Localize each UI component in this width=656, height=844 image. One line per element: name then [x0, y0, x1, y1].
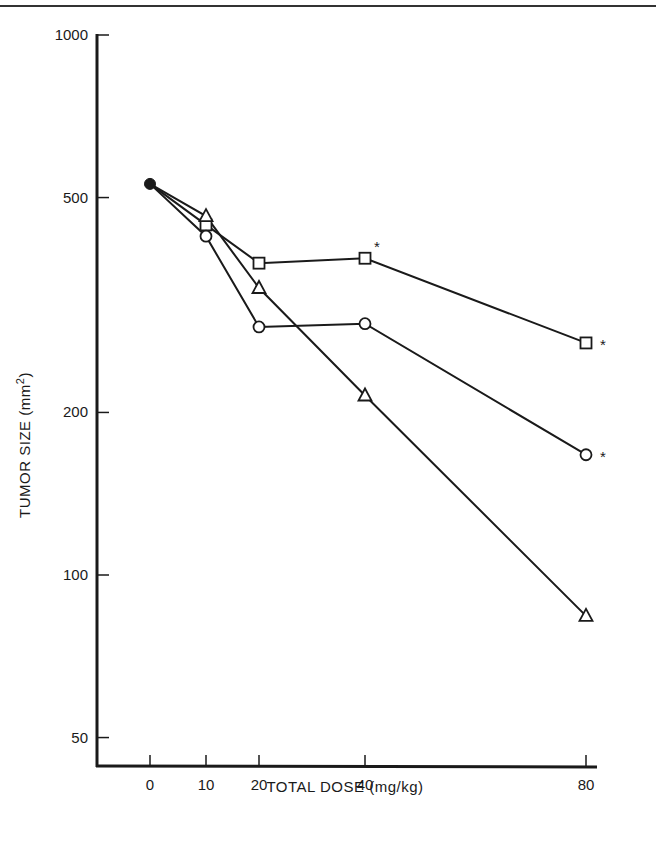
y-tick-label: 500: [63, 189, 88, 206]
x-axis-title: TOTAL DOSE (mg/kg): [266, 778, 423, 795]
y-tick-label: 200: [63, 403, 88, 420]
y-tick-label: 1000: [55, 26, 88, 43]
axes: 100050020010050010204080: [55, 26, 597, 793]
y-tick-label: 100: [63, 566, 88, 583]
triangle-marker: [200, 209, 213, 221]
y-axis-title: TUMOR SIZE (mm2): [14, 372, 33, 518]
baseline-filled-circle-marker: [145, 178, 156, 189]
x-tick-label: 10: [198, 776, 215, 793]
circle-marker: [581, 449, 592, 460]
square-marker: [360, 253, 371, 264]
x-tick-label: 80: [578, 776, 595, 793]
x-axis-line: [96, 766, 597, 767]
tumor-size-chart: 100050020010050010204080 *** TOTAL DOSE …: [0, 0, 656, 844]
x-tick-label: 0: [146, 776, 154, 793]
significance-annotations: ***: [374, 238, 606, 464]
circle-marker: [360, 318, 371, 329]
x-tick-label: 20: [251, 776, 268, 793]
square-marker: [254, 258, 265, 269]
square-marker: [581, 337, 592, 348]
circle-marker: [201, 231, 212, 242]
significance-asterisk: *: [600, 448, 606, 465]
significance-asterisk: *: [374, 238, 380, 255]
circle-marker: [254, 321, 265, 332]
significance-asterisk: *: [600, 336, 606, 353]
y-tick-label: 50: [71, 729, 88, 746]
